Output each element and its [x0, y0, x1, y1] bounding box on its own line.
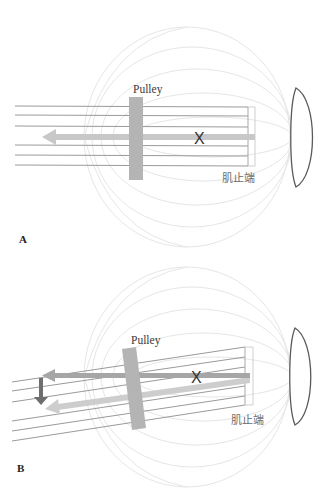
rotation-center-marker-a: X [194, 130, 205, 147]
cornea-a [291, 88, 313, 187]
displacement-arrow-b [34, 378, 48, 405]
panel-b: Pulley X 肌止端 B [12, 267, 311, 487]
panel-letter-a: A [19, 233, 27, 245]
pulley-label-a: Pulley [133, 83, 163, 96]
pulley-a [129, 97, 143, 180]
panel-letter-b: B [17, 462, 25, 474]
rotation-center-marker-b: X [191, 369, 202, 386]
cornea-b [290, 328, 311, 425]
muscle-force-arrow-a [42, 129, 255, 145]
panel-a: Pulley X 肌止端 A [15, 27, 313, 247]
insertion-label-a: 肌止端 [222, 172, 255, 185]
shifted-force-arrow-b [45, 377, 250, 414]
pulley-label-b: Pulley [131, 334, 161, 347]
pulley-b [122, 347, 146, 430]
insertion-label-b: 肌止端 [231, 414, 264, 427]
pulley-diagram: Pulley X 肌止端 A [0, 0, 330, 493]
